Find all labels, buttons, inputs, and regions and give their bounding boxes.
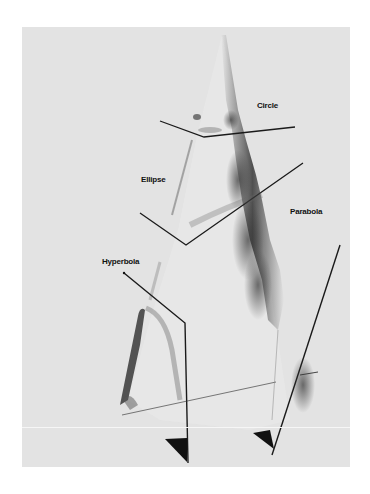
label-ellipse: Ellipse — [141, 175, 165, 184]
conic-sections-illustration — [0, 0, 370, 494]
label-circle: Circle — [257, 101, 278, 110]
label-parabola: Parabola — [290, 207, 322, 216]
label-hyperbola: Hyperbola — [102, 257, 139, 266]
cone — [128, 35, 290, 430]
scan-artifact-line — [22, 427, 350, 428]
